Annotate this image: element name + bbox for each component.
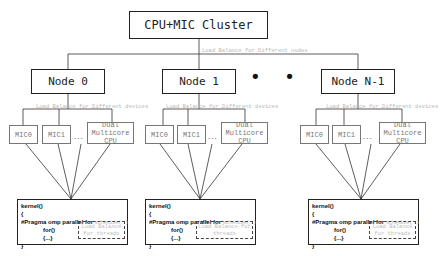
node-n-1-device-mic1: MIC1 (332, 125, 361, 144)
node-n-1-device-cpu: Dual Multicore CPU (379, 122, 426, 144)
node-0-device-mic1: MIC1 (42, 125, 71, 144)
kernel-open-brace: { (149, 210, 252, 218)
cluster-label: CPU+MIC Cluster (144, 18, 252, 32)
kernel-open-brace: { (21, 210, 124, 218)
node-0-thread-balance-box: Load Balance for threads (78, 221, 125, 239)
node-0-kernel-box: kernel() { #Pragma omp parallel for sche… (17, 199, 128, 245)
device-label: Dual Multicore CPU (88, 121, 133, 145)
device-label: MIC1 (48, 131, 65, 139)
node-1-box: Node 1 (162, 69, 236, 94)
node-1-device-mic1: MIC1 (177, 125, 206, 144)
device-label: MIC0 (151, 131, 168, 139)
node-1-device-cpu: Dual Multicore CPU (221, 122, 268, 144)
kernel-close-brace: } (149, 242, 252, 250)
node-n-1-balance-label: Load Balance for Different devices (326, 103, 438, 110)
node-1-device-mic0: MIC0 (145, 125, 174, 144)
device-label: Dual Multicore CPU (380, 121, 425, 145)
node-1-kernel-box: kernel() { #Pragma omp parallel for sche… (145, 199, 256, 245)
node-0-label: Node 0 (48, 75, 88, 88)
node-n-1-label: Node N-1 (332, 75, 385, 88)
node-1-balance-label: Load Balance for Different devices (166, 103, 278, 110)
node-1-device-ellipsis: ... (208, 133, 218, 141)
node-0-box: Node 0 (31, 69, 105, 94)
kernel-close-brace: } (21, 242, 124, 250)
device-label: MIC0 (15, 131, 32, 139)
node-0-device-ellipsis: ... (74, 133, 84, 141)
kernel-signature: kernel() (21, 202, 124, 210)
node-n-1-kernel-box: kernel() { #Pragma omp parallel for sche… (308, 199, 419, 245)
kernel-signature: kernel() (149, 202, 252, 210)
kernel-signature: kernel() (312, 202, 415, 210)
cluster-balance-label: Load Balance for Different nodes (202, 47, 308, 54)
kernel-open-brace: { (312, 210, 415, 218)
node-1-label: Node 1 (179, 75, 219, 88)
node-n-1-thread-balance-box: Load Balance for threads (369, 221, 416, 239)
node-0-device-cpu: Dual Multicore CPU (87, 122, 134, 144)
node-n-1-device-ellipsis: ... (363, 133, 373, 141)
kernel-close-brace: } (312, 242, 415, 250)
device-label: Dual Multicore CPU (222, 121, 267, 145)
node-n-1-box: Node N-1 (321, 69, 395, 94)
node-0-balance-label: Load Balance for Different devices (36, 103, 148, 110)
device-label: MIC0 (306, 131, 323, 139)
node-n-1-device-mic0: MIC0 (300, 125, 329, 144)
node-0-device-mic0: MIC0 (9, 125, 38, 144)
device-label: MIC1 (183, 131, 200, 139)
cluster-box: CPU+MIC Cluster (129, 11, 268, 39)
node-1-thread-balance-box: Load Balance for threads (196, 221, 253, 239)
device-label: MIC1 (338, 131, 355, 139)
